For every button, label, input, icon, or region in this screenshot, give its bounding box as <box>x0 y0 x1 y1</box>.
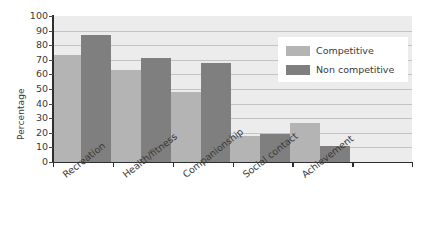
y-axis-tick-label: 0 <box>26 157 48 167</box>
y-axis-tick-mark <box>49 31 53 32</box>
y-axis-tick-label: 70 <box>26 55 48 65</box>
bar-recreation-competitive <box>53 55 81 162</box>
y-axis-tick-mark <box>49 45 53 46</box>
bar-companionship-competitive <box>171 92 201 162</box>
y-axis-tick-label: 40 <box>26 99 48 109</box>
y-axis-tick-label: 100 <box>26 11 48 21</box>
y-axis-tick-labels: 1009080706050403020100 <box>26 16 48 162</box>
y-axis-tick-mark <box>49 133 53 134</box>
y-axis-tick-mark <box>49 118 53 119</box>
y-axis-tick-label: 20 <box>26 128 48 138</box>
y-axis-tick-mark <box>49 60 53 61</box>
y-axis-tick-mark <box>49 16 53 17</box>
legend-swatch-non-competitive <box>286 65 310 75</box>
y-axis-tick-mark <box>49 104 53 105</box>
bar-chart: Percentage 1009080706050403020100 Compet… <box>0 0 427 236</box>
y-axis-tick-label: 80 <box>26 40 48 50</box>
x-axis-tick-mark <box>292 162 293 167</box>
x-axis-tick-mark <box>53 162 54 167</box>
bar-health-fitness-competitive <box>111 70 141 162</box>
y-axis-tick-label: 90 <box>26 26 48 36</box>
legend-label: Competitive <box>316 44 374 57</box>
legend-label: Non competitive <box>316 63 394 76</box>
x-axis-tick-mark <box>113 162 114 167</box>
x-axis-tick-mark <box>233 162 234 167</box>
y-axis-tick-label: 30 <box>26 113 48 123</box>
gridline <box>53 31 412 32</box>
y-axis-tick-label: 60 <box>26 70 48 80</box>
x-axis-tick-mark <box>412 162 413 167</box>
legend-swatch-competitive <box>286 46 310 56</box>
y-axis-tick-label: 50 <box>26 84 48 94</box>
chart-legend: CompetitiveNon competitive <box>278 37 408 82</box>
y-axis-tick-mark <box>49 89 53 90</box>
y-axis-tick-label: 10 <box>26 143 48 153</box>
y-axis-tick-mark <box>49 74 53 75</box>
x-axis-tick-mark <box>173 162 174 167</box>
y-axis-tick-mark <box>49 147 53 148</box>
x-axis-tick-mark <box>352 162 353 167</box>
